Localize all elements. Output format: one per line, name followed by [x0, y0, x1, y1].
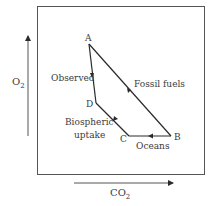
o2-co2-diagram: O2 CO2 A B C D Fossil fuels Observed Bio… [0, 0, 215, 206]
biospheric-arrow-icon [113, 116, 118, 121]
point-d-label: D [86, 99, 93, 109]
oceans-label: Oceans [136, 141, 170, 151]
point-c-label: C [120, 134, 127, 144]
biospheric-label-line2: uptake [74, 130, 105, 140]
x-axis-label: CO2 [110, 187, 130, 201]
point-b-label: B [174, 132, 181, 142]
y-axis-label: O2 [12, 76, 25, 90]
biospheric-label-line1: Biospheric [65, 117, 114, 127]
oceans-arrow-icon [148, 134, 153, 139]
fossil-fuels-label: Fossil fuels [134, 79, 185, 89]
observed-label: Observed [51, 73, 95, 83]
point-a-label: A [84, 33, 92, 43]
plot-frame [38, 7, 205, 175]
